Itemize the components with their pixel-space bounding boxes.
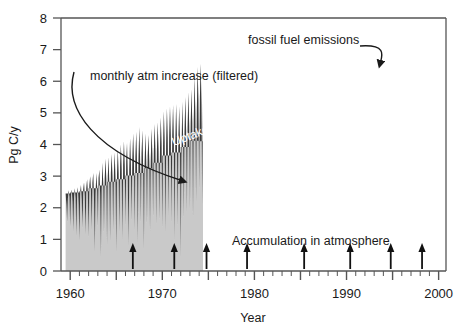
chart-svg: 012345678 19601970198019902000 Pg C/y Ye… xyxy=(0,0,458,336)
y-tick-label: 5 xyxy=(40,105,47,120)
y-tick-label: 1 xyxy=(40,232,47,247)
x-tick-label: 1980 xyxy=(240,286,269,301)
y-tick-label: 4 xyxy=(40,137,47,152)
y-tick-label: 2 xyxy=(40,200,47,215)
y-tick-label: 6 xyxy=(40,74,47,89)
y-axis-ticks: 012345678 xyxy=(40,11,61,279)
y-tick-label: 3 xyxy=(40,169,47,184)
x-tick-label: 1990 xyxy=(332,286,361,301)
y-axis-title: Pg C/y xyxy=(7,125,21,163)
annotation-accumulation-in-atmosphere: Accumulation in atmosphere xyxy=(232,234,390,248)
y-tick-label: 7 xyxy=(40,42,47,57)
x-tick-label: 1960 xyxy=(56,286,85,301)
x-tick-label: 1970 xyxy=(148,286,177,301)
y-tick-label: 0 xyxy=(40,264,47,279)
chart-figure: 012345678 19601970198019902000 Pg C/y Ye… xyxy=(0,0,458,336)
x-axis-ticks: 19601970198019902000 xyxy=(56,271,453,301)
x-axis-title: Year xyxy=(240,311,265,325)
y-tick-label: 8 xyxy=(40,11,47,26)
x-tick-label: 2000 xyxy=(424,286,453,301)
annotation-monthly-atm-increase: monthly atm increase (filtered) xyxy=(90,69,258,83)
annotation-fossil-fuel-emissions: fossil fuel emissions xyxy=(248,33,359,47)
